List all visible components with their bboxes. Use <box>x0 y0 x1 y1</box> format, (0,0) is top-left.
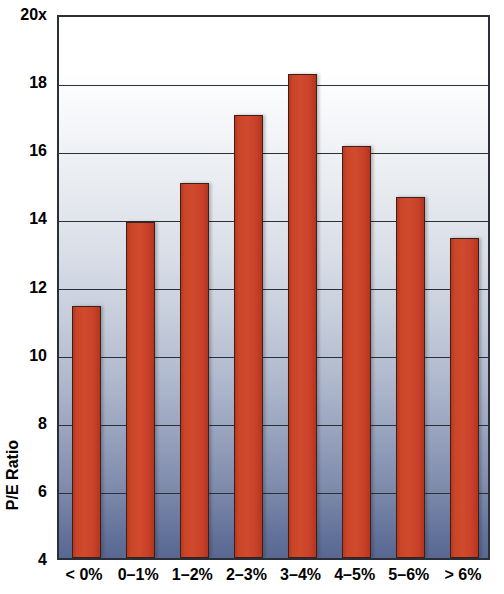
pe-ratio-bar-chart: P/E Ratio 468101214161820x < 0%0–1%1–2%2… <box>0 0 504 594</box>
x-axis-tick-label: 4–5% <box>328 566 382 584</box>
y-axis-tick-labels: 468101214161820x <box>0 0 57 594</box>
bar[interactable] <box>396 197 425 558</box>
bar[interactable] <box>180 183 209 558</box>
x-axis-tick-label: 0–1% <box>111 566 165 584</box>
y-axis-tick-label: 10 <box>29 348 47 364</box>
y-axis-tick-label: 16 <box>29 143 47 159</box>
bar[interactable] <box>450 238 479 558</box>
x-axis-tick-label: 2–3% <box>219 566 273 584</box>
y-axis-tick-label: 18 <box>29 75 47 91</box>
plot-area <box>57 15 490 560</box>
bar[interactable] <box>288 74 317 558</box>
x-axis-tick-label: 5–6% <box>382 566 436 584</box>
y-axis-tick-label: 12 <box>29 280 47 296</box>
y-axis-tick-label: 6 <box>38 484 47 500</box>
bar[interactable] <box>126 222 155 558</box>
y-axis-tick-label: 20x <box>20 7 47 23</box>
x-axis-tick-labels: < 0%0–1%1–2%2–3%3–4%4–5%5–6%> 6% <box>57 562 490 594</box>
x-axis-tick-label: 3–4% <box>274 566 328 584</box>
bar[interactable] <box>234 115 263 558</box>
y-axis-tick-label: 14 <box>29 211 47 227</box>
bar[interactable] <box>342 146 371 558</box>
y-axis-tick-label: 4 <box>38 552 47 568</box>
y-axis-tick-label: 8 <box>38 416 47 432</box>
x-axis-tick-label: > 6% <box>436 566 490 584</box>
bar-series <box>59 17 488 558</box>
bar[interactable] <box>72 306 101 558</box>
x-axis-tick-label: 1–2% <box>165 566 219 584</box>
x-axis-tick-label: < 0% <box>57 566 111 584</box>
